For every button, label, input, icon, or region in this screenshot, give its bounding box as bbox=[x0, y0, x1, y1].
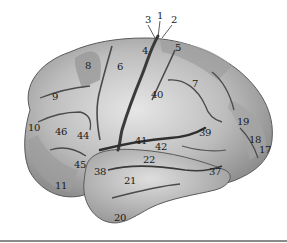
area-label: 40 bbox=[151, 90, 163, 100]
area-label: 38 bbox=[94, 167, 106, 177]
area-label: 4 bbox=[142, 46, 148, 56]
area-label: 20 bbox=[114, 213, 126, 223]
area-label: 1 bbox=[157, 11, 163, 21]
brain-diagram: 3 1 2 4 5 8 6 9 7 40 10 46 44 41 42 39 1… bbox=[0, 0, 287, 243]
area-label: 3 bbox=[145, 15, 151, 25]
area-label: 8 bbox=[85, 61, 91, 71]
area-label: 11 bbox=[55, 181, 67, 191]
area-label: 9 bbox=[52, 92, 58, 102]
area-label: 2 bbox=[171, 15, 177, 25]
area-label: 37 bbox=[209, 167, 221, 177]
area-label: 10 bbox=[28, 123, 40, 133]
area-label: 44 bbox=[77, 131, 89, 141]
area-label: 7 bbox=[192, 79, 198, 89]
area-label: 6 bbox=[117, 62, 123, 72]
area-label: 19 bbox=[237, 117, 249, 127]
area-label: 21 bbox=[124, 176, 136, 186]
area-label: 41 bbox=[135, 136, 147, 146]
area-label: 45 bbox=[74, 160, 86, 170]
area-label: 5 bbox=[175, 43, 181, 53]
area-label: 39 bbox=[199, 128, 211, 138]
bottom-divider bbox=[0, 240, 287, 242]
area-label: 22 bbox=[143, 155, 155, 165]
area-label: 42 bbox=[155, 142, 167, 152]
area-label: 46 bbox=[55, 127, 67, 137]
area-label: 17 bbox=[259, 145, 271, 155]
